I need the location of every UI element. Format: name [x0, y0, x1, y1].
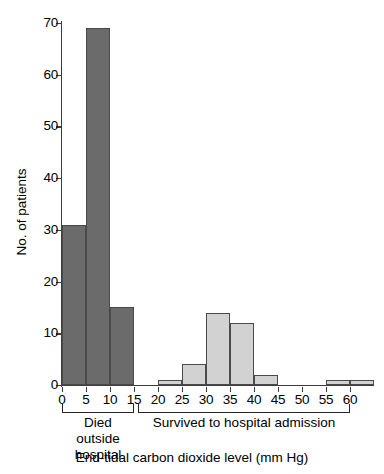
bar [182, 364, 206, 385]
group-bracket-label: Survived to hospital admission [138, 415, 350, 431]
y-tick-label: 70 [43, 16, 58, 30]
y-tick-label: 20 [43, 275, 58, 289]
bar [350, 380, 374, 385]
group-bracket [138, 404, 350, 413]
y-tick-label: 0 [51, 378, 58, 392]
y-tick-label: 10 [43, 327, 58, 341]
y-axis-title-text: No. of patients [14, 168, 29, 255]
histogram-chart: No. of patients 010203040506070 05101520… [0, 0, 384, 474]
group-bracket [62, 404, 134, 413]
plot-area: 010203040506070 [62, 23, 374, 385]
y-tick-label: 50 [43, 120, 58, 134]
x-axis-title: End-tidal carbon dioxide level (mm Hg) [0, 450, 384, 466]
bar [62, 225, 86, 385]
x-axis-title-text: End-tidal carbon dioxide level (mm Hg) [76, 450, 309, 465]
y-tick-label: 30 [43, 223, 58, 237]
bar [110, 307, 134, 385]
bar [230, 323, 254, 385]
bar [158, 380, 182, 385]
bar [326, 380, 350, 385]
bar [254, 375, 278, 385]
y-tick-label: 60 [43, 68, 58, 82]
bar [86, 28, 110, 385]
bar [206, 313, 230, 385]
y-tick-label: 40 [43, 171, 58, 185]
y-axis-title: No. of patients [2, 152, 22, 272]
